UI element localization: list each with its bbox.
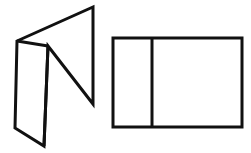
net-right-face	[152, 38, 242, 127]
geometry-figure	[0, 0, 251, 153]
folded-panel-3d-group	[15, 7, 93, 146]
flat-net-2d-group	[113, 38, 242, 127]
net-left-face	[113, 38, 152, 127]
figure-canvas	[0, 0, 251, 153]
